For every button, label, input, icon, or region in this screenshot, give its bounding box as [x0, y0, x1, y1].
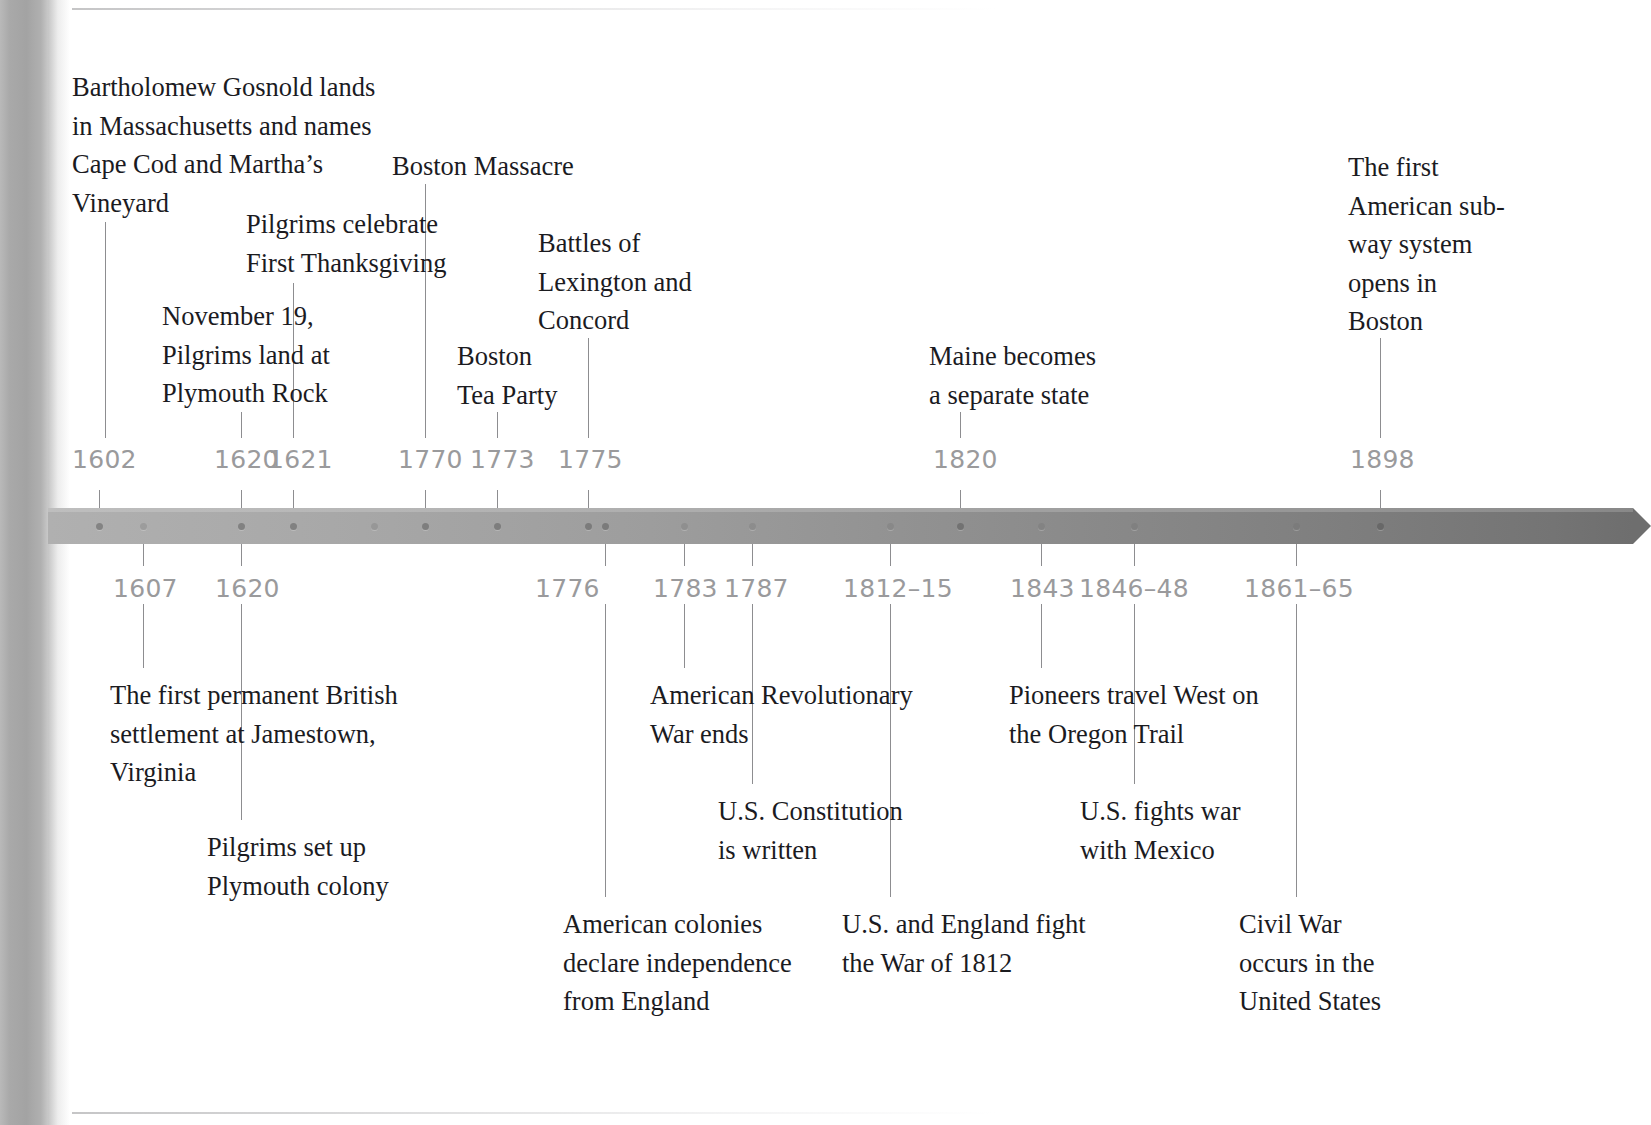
event-caption-above-1898: The first American sub- way system opens…: [1348, 148, 1528, 341]
event-caption-below-1787: U.S. Constitution is written: [718, 792, 948, 869]
event-caption-above-1770: Boston Massacre: [392, 147, 602, 186]
timeline-axis-bar: [48, 508, 1633, 544]
year-label-above-1602: 1602: [72, 447, 137, 472]
timeline-dot-3: [290, 523, 297, 530]
event-leader-below-6: [1041, 604, 1042, 668]
event-caption-above-1620: November 19, Pilgrims land at Plymouth R…: [162, 297, 392, 413]
event-leader-below-2: [605, 604, 606, 897]
timeline-dot-6: [494, 523, 501, 530]
timeline-arrow-head: [1633, 508, 1651, 544]
year-tick-above-4: [497, 490, 498, 508]
year-label-below-1846-48: 1846–48: [1079, 576, 1189, 601]
event-leader-above-6: [960, 412, 961, 438]
timeline-dot-8: [602, 523, 609, 530]
event-caption-above-1775: Battles of Lexington and Concord: [538, 224, 738, 340]
year-label-below-1843: 1843: [1010, 576, 1075, 601]
event-caption-below-1776: American colonies declare independence f…: [563, 905, 833, 1021]
year-tick-below-7: [1134, 544, 1135, 566]
top-rule: [72, 8, 997, 10]
year-label-above-1770: 1770: [398, 447, 463, 472]
year-tick-below-1: [241, 544, 242, 566]
book-gutter-shadow: [48, 0, 70, 1125]
year-tick-below-8: [1296, 544, 1297, 566]
timeline-dot-13: [1038, 523, 1045, 530]
timeline-dot-11: [887, 523, 894, 530]
year-label-above-1773: 1773: [470, 447, 535, 472]
event-leader-below-3: [684, 604, 685, 668]
year-tick-above-6: [960, 490, 961, 508]
event-caption-above-1773: Boston Tea Party: [457, 337, 607, 414]
event-caption-above-1602: Bartholomew Gosnold lands in Massachuset…: [72, 68, 472, 222]
timeline-dot-4: [371, 523, 378, 530]
event-caption-below-1783: American Revolutionary War ends: [650, 676, 950, 753]
event-caption-below-1812-15: U.S. and England fight the War of 1812: [842, 905, 1132, 982]
year-tick-below-6: [1041, 544, 1042, 566]
timeline-dot-1: [140, 523, 147, 530]
timeline-dot-7: [585, 523, 592, 530]
year-tick-above-2: [293, 490, 294, 508]
year-label-above-1621: 1621: [268, 447, 333, 472]
event-leader-above-1: [241, 412, 242, 438]
year-tick-below-2: [605, 544, 606, 566]
event-caption-below-1843: Pioneers travel West on the Oregon Trail: [1009, 676, 1309, 753]
event-caption-above-1621: Pilgrims celebrate First Thanksgiving: [246, 205, 486, 282]
event-leader-above-7: [1380, 338, 1381, 438]
timeline-dot-14: [1131, 523, 1138, 530]
event-caption-below-1861-65: Civil War occurs in the United States: [1239, 905, 1439, 1021]
year-tick-below-3: [684, 544, 685, 566]
year-tick-below-4: [752, 544, 753, 566]
timeline-dot-10: [749, 523, 756, 530]
event-leader-below-0: [143, 604, 144, 668]
year-label-below-1812-15: 1812–15: [843, 576, 953, 601]
bottom-rule: [72, 1112, 997, 1114]
timeline-dot-0: [96, 523, 103, 530]
event-caption-below-1620: Pilgrims set up Plymouth colony: [207, 828, 437, 905]
year-label-below-1776: 1776: [535, 576, 600, 601]
year-tick-above-5: [588, 490, 589, 508]
timeline-page: 1602162016211770177317751820189816071620…: [0, 0, 1651, 1125]
timeline-dot-16: [1377, 523, 1384, 530]
year-tick-below-0: [143, 544, 144, 566]
year-label-below-1620: 1620: [215, 576, 280, 601]
year-tick-above-0: [99, 490, 100, 508]
event-leader-above-4: [497, 412, 498, 438]
year-label-below-1783: 1783: [653, 576, 718, 601]
timeline-dot-5: [422, 523, 429, 530]
year-tick-above-3: [425, 490, 426, 508]
year-label-below-1861-65: 1861–65: [1244, 576, 1354, 601]
event-leader-above-0: [105, 222, 106, 438]
event-caption-above-1820: Maine becomes a separate state: [929, 337, 1149, 414]
year-label-above-1820: 1820: [933, 447, 998, 472]
event-caption-below-1607: The first permanent British settlement a…: [110, 676, 460, 792]
timeline-dot-12: [957, 523, 964, 530]
timeline-dot-9: [681, 523, 688, 530]
event-caption-below-1846-48: U.S. fights war with Mexico: [1080, 792, 1290, 869]
year-tick-above-1: [241, 490, 242, 508]
year-label-below-1787: 1787: [724, 576, 789, 601]
year-label-below-1607: 1607: [113, 576, 178, 601]
year-label-above-1775: 1775: [558, 447, 623, 472]
book-gutter-strip: [0, 0, 48, 1125]
year-label-above-1898: 1898: [1350, 447, 1415, 472]
year-tick-above-7: [1380, 490, 1381, 508]
timeline-dot-15: [1293, 523, 1300, 530]
timeline-dot-2: [238, 523, 245, 530]
year-tick-below-5: [890, 544, 891, 566]
